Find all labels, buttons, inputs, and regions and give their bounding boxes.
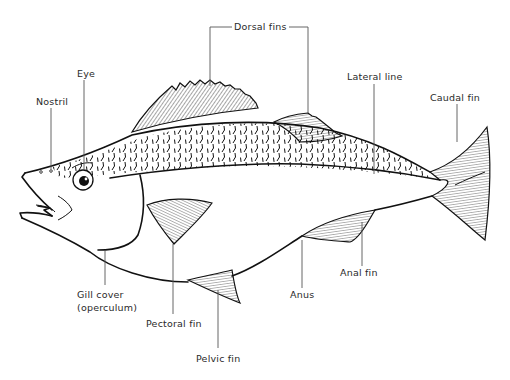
anal-fin [302,210,375,242]
label-nostril: Nostril [36,96,68,107]
label-dorsal-fins: Dorsal fins [234,21,287,32]
label-operculum: (operculum) [77,302,137,313]
label-lateral-line: Lateral line [347,71,403,82]
pectoral-fin [147,199,212,244]
label-pectoral-fin: Pectoral fin [146,318,202,329]
label-pelvic-fin: Pelvic fin [196,353,240,364]
nostrils [40,170,53,174]
label-eye: Eye [77,68,95,79]
label-anus: Anus [290,289,314,300]
label-caudal-fin: Caudal fin [430,92,480,103]
pelvic-fin [188,270,240,303]
caudal-fin [430,127,490,240]
label-anal-fin: Anal fin [340,267,378,278]
label-gill-cover: Gill cover [77,289,124,300]
fish-anatomy-diagram: Dorsal fins Eye Nostril Lateral line Cau… [0,0,510,380]
